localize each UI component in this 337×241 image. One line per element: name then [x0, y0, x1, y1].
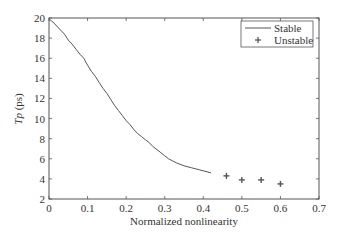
y-tick-label: 10 — [34, 113, 46, 125]
x-tick-label: 0.1 — [81, 202, 95, 214]
y-tick-label: 8 — [40, 133, 46, 145]
y-tick-label: 16 — [34, 52, 46, 64]
y-tick-label: 20 — [34, 12, 46, 24]
series-unstable-markers — [223, 173, 283, 187]
y-tick-label: 12 — [34, 92, 45, 104]
legend-stable-label: Stable — [274, 22, 302, 34]
x-tick-label: 0.7 — [312, 202, 326, 214]
unstable-marker — [223, 173, 229, 179]
x-axis-label: Normalized nonlinearity — [130, 215, 238, 227]
x-tick-label: 0.3 — [158, 202, 172, 214]
chart: 00.10.20.30.40.50.60.72468101214161820 N… — [0, 0, 337, 241]
y-tick-label: 18 — [34, 32, 46, 44]
y-tick-label: 6 — [40, 153, 46, 165]
x-tick-label: 0 — [46, 202, 52, 214]
x-tick-label: 0.2 — [119, 202, 133, 214]
x-tick-label: 0.4 — [196, 202, 210, 214]
stable-curve — [49, 19, 211, 173]
unstable-marker — [277, 181, 283, 187]
legend-unstable-label: Unstable — [274, 34, 313, 46]
y-tick-label: 4 — [40, 173, 46, 185]
y-tick-label: 2 — [40, 193, 46, 205]
y-axis-label: Tp (ps) — [12, 93, 25, 125]
y-axis-label-symbol: Tp — [12, 113, 24, 125]
unstable-marker — [239, 177, 245, 183]
legend: Stable Unstable — [241, 21, 313, 47]
x-tick-label: 0.6 — [274, 202, 288, 214]
unstable-marker — [258, 177, 264, 183]
x-tick-label: 0.5 — [235, 202, 249, 214]
y-axis-label-unit: (ps) — [12, 93, 25, 113]
series-stable-line — [49, 19, 211, 173]
y-tick-label: 14 — [34, 72, 46, 84]
